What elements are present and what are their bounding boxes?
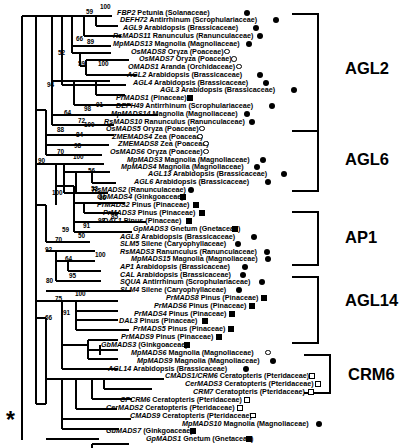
bootstrap-value: 100 (52, 190, 63, 196)
bootstrap-value: 50 (78, 233, 85, 239)
bootstrap-value: 90 (38, 158, 45, 164)
bootstrap-value: 85 (111, 214, 118, 220)
bootstrap-value: 98 (74, 143, 81, 149)
taxon-gene-name: GpMADS1 (146, 434, 181, 443)
clade-bracket (292, 277, 318, 343)
bootstrap-value: 100 (73, 154, 84, 160)
taxon-marker-fc (257, 72, 263, 78)
bootstrap-value: 64 (65, 256, 72, 262)
taxon-gene-name: CMADS9 (130, 411, 160, 420)
taxon-marker-oc (231, 56, 237, 62)
taxon-marker-fs (249, 303, 255, 309)
bootstrap-value: 56 (88, 168, 95, 174)
taxon-gene-name: AGL14 (108, 364, 131, 373)
taxon-marker-fc (260, 157, 266, 163)
taxon-marker-oc (203, 149, 209, 155)
taxon-marker-os (315, 381, 321, 387)
bootstrap-value: 92 (45, 247, 52, 253)
taxon-marker-oc (199, 126, 205, 132)
bootstrap-value: 66 (45, 315, 52, 321)
taxon-marker-os (237, 405, 243, 411)
taxon-marker-oc (265, 350, 271, 356)
taxon-species-family: Magnolia (Magnoliaceae) (222, 419, 309, 428)
bootstrap-value: 88 (57, 127, 64, 133)
bootstrap-value: 91 (96, 102, 103, 108)
bootstrap-value: 100 (95, 252, 106, 258)
taxon-species-family: Gnetum (Gnetaceae) (181, 434, 253, 443)
taxon-marker-oc (203, 141, 209, 147)
bootstrap-value: 100 (84, 122, 95, 128)
bootstrap-value: 53 (91, 186, 98, 192)
taxon-marker-fs (199, 210, 205, 216)
taxon-marker-fs (216, 334, 222, 340)
bootstrap-value: 70 (57, 149, 64, 155)
taxon-marker-fs (261, 295, 267, 301)
clade-label-agl14: AGL14 (345, 292, 398, 309)
taxon-marker-fs (246, 436, 252, 442)
bootstrap-value: 86 (99, 195, 106, 201)
phylogenetic-tree-figure: FBP2 Petunia (Solanaceae)DEFH72 Antirrhi… (0, 0, 415, 448)
bootstrap-value: 64 (64, 110, 71, 116)
taxon-marker-fc (316, 421, 322, 427)
bootstrap-value: 98 (98, 218, 105, 224)
clade-label-ap1: AP1 (345, 229, 377, 246)
bootstrap-value: 66 (76, 36, 83, 42)
taxon-marker-fc (246, 41, 252, 47)
bootstrap-value: 100 (100, 4, 111, 10)
taxon-marker-os (244, 397, 250, 403)
bootstrap-value: 95 (69, 273, 76, 279)
bootstrap-value: 59 (78, 61, 85, 67)
clade-label-agl6: AGL6 (345, 151, 389, 168)
taxon-marker-os (250, 413, 256, 419)
clade-bracket (292, 131, 318, 191)
bootstrap-value: 59 (86, 9, 93, 15)
taxon-label: GpMADS1 Gnetum (Gnetaceae) (146, 435, 253, 442)
bootstrap-value: 100 (75, 291, 86, 297)
bootstrap-value: 91 (63, 310, 70, 316)
root-asterisk-marker: * (6, 409, 15, 432)
taxon-gene-name: GbMADS7 (106, 426, 141, 435)
bootstrap-value: 59 (62, 227, 69, 233)
taxon-marker-os (308, 389, 314, 395)
taxon-marker-fs (229, 311, 235, 317)
taxon-species-family: Arabidopsis (Brassicaceae) (179, 85, 275, 94)
bootstrap-value: 89 (87, 39, 94, 45)
bootstrap-value: 70 (55, 237, 62, 243)
taxon-marker-fc (270, 358, 276, 364)
clade-label-crm6: CRM6 (348, 366, 395, 383)
taxon-gene-name: AGL4 (133, 78, 152, 87)
bootstrap-value: 80 (46, 278, 53, 284)
bootstrap-value: 52 (58, 50, 65, 56)
bootstrap-value: 84 (76, 132, 83, 138)
taxon-label: MpMADS10 Magnolia (Magnoliaceae) (182, 420, 309, 427)
taxon-marker-fc (249, 119, 255, 125)
taxon-marker-fs (228, 326, 234, 332)
bootstrap-value: 98 (84, 106, 91, 112)
bootstrap-value: 100 (98, 61, 109, 67)
taxon-gene-name: SLM4 (120, 285, 139, 294)
clade-bracket (292, 212, 318, 265)
clade-bracket (292, 14, 318, 131)
taxon-marker-fc (264, 249, 270, 255)
bootstrap-value: 91 (83, 223, 90, 229)
bootstrap-value: 94 (47, 82, 54, 88)
taxon-marker-os (309, 373, 315, 379)
taxon-marker-oc (236, 64, 242, 70)
bootstrap-value: 75 (55, 296, 62, 302)
taxon-marker-fc (251, 234, 257, 240)
clade-label-agl2: AGL2 (345, 60, 389, 77)
